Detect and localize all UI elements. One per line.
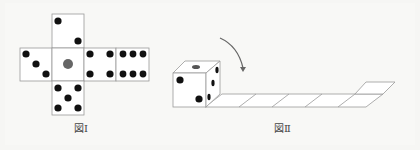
pip-one <box>63 59 73 69</box>
track <box>205 82 395 107</box>
figure-svg <box>0 0 420 150</box>
figure-1-caption: 図Ⅰ <box>74 120 88 135</box>
curved-arrow-icon <box>220 38 246 72</box>
figure-2-caption: 図Ⅱ <box>274 120 291 135</box>
